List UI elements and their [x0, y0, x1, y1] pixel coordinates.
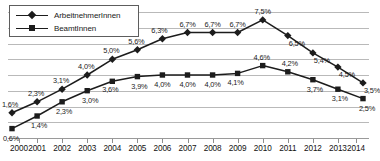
x-axis-label: 2010: [254, 144, 272, 153]
data-label: 3,6%: [102, 85, 118, 94]
data-point-marker: [59, 99, 64, 104]
data-label: 5,0%: [103, 46, 119, 55]
data-point-marker: [109, 56, 116, 63]
data-point-marker: [235, 71, 240, 76]
x-axis-tick: [356, 139, 357, 143]
data-point-marker: [9, 126, 14, 131]
x-axis-tick: [62, 139, 63, 143]
legend-label: BeamtInnen: [54, 24, 96, 33]
x-axis-tick: [338, 139, 339, 143]
data-label: 4,1%: [227, 78, 243, 87]
data-point-marker: [134, 46, 141, 53]
data-point-marker: [234, 29, 241, 36]
data-point-marker: [360, 96, 365, 101]
data-label: 3,1%: [332, 94, 348, 103]
x-axis-tick: [313, 139, 314, 143]
data-point-marker: [185, 72, 190, 77]
legend-item-arbeitnehmerinnen: ArbeitnehmerInnen: [16, 9, 120, 21]
data-label: 1,6%: [2, 99, 18, 108]
data-point-marker: [184, 29, 191, 36]
data-point-marker: [85, 88, 90, 93]
x-axis-label: 2006: [153, 144, 171, 153]
data-point-marker: [285, 69, 290, 74]
x-axis-label: 2005: [128, 144, 146, 153]
data-label: 4,0%: [204, 80, 220, 89]
data-label: 5,4%: [314, 55, 330, 64]
data-label: 6,7%: [204, 19, 220, 28]
data-point-marker: [58, 86, 65, 93]
data-label: 4,0%: [78, 62, 94, 71]
x-axis-tick: [263, 139, 264, 143]
chart-legend: ArbeitnehmerInnen BeamtInnen: [9, 5, 139, 37]
x-axis-tick: [188, 139, 189, 143]
data-point-marker: [34, 113, 39, 118]
legend-label: ArbeitnehmerInnen: [54, 11, 120, 20]
data-label: 2,3%: [56, 106, 72, 115]
x-axis-label: 2002: [53, 144, 71, 153]
x-axis-label: 2001: [28, 144, 46, 153]
x-axis-label: 2003: [78, 144, 96, 153]
data-label: 3,1%: [53, 76, 69, 85]
x-axis-label: 2008: [204, 144, 222, 153]
data-point-marker: [84, 71, 91, 78]
data-label: 4,0%: [154, 80, 170, 89]
data-label: 6,3%: [151, 25, 167, 34]
data-label: 4,2%: [282, 58, 298, 67]
x-axis-tick: [288, 139, 289, 143]
data-point-marker: [135, 74, 140, 79]
x-axis-tick: [112, 139, 113, 143]
x-axis-tick: [162, 139, 163, 143]
data-point-marker: [335, 87, 340, 92]
data-label: 5,6%: [128, 36, 144, 45]
x-axis-tick: [37, 139, 38, 143]
data-point-marker: [260, 63, 265, 68]
data-point-marker: [310, 77, 315, 82]
x-axis-label: 2009: [229, 144, 247, 153]
data-label: 6,7%: [179, 19, 195, 28]
data-point-marker: [259, 16, 266, 23]
data-point-marker: [159, 35, 166, 42]
data-label: 2,3%: [28, 88, 44, 97]
x-axis-tick: [87, 139, 88, 143]
data-label: 6,7%: [229, 19, 245, 28]
legend-item-beamtinnen: BeamtInnen: [16, 22, 96, 34]
diamond-marker-icon: [16, 10, 48, 20]
data-label: 6,5%: [289, 38, 305, 47]
data-label: 4,6%: [254, 52, 270, 61]
x-axis-label: 2011: [279, 144, 296, 153]
x-axis-label: 2004: [103, 144, 121, 153]
data-label: 3,7%: [307, 84, 323, 93]
x-axis-tick: [213, 139, 214, 143]
data-point-marker: [8, 109, 15, 116]
x-axis-label: 2007: [179, 144, 197, 153]
square-marker-icon: [16, 23, 48, 33]
data-point-marker: [110, 79, 115, 84]
data-label: 3,0%: [82, 95, 98, 104]
data-point-marker: [160, 72, 165, 77]
data-point-marker: [33, 98, 40, 105]
data-point-marker: [209, 29, 216, 36]
data-label: 1,4%: [31, 121, 47, 130]
data-label: 4,0%: [179, 80, 195, 89]
x-axis-tick: [137, 139, 138, 143]
data-point-marker: [210, 72, 215, 77]
data-label: 3,9%: [131, 81, 147, 90]
data-label: 2,5%: [359, 103, 375, 112]
x-axis-label: 2012: [304, 144, 322, 153]
x-axis-label: 2000: [10, 144, 28, 153]
data-label: 7,5%: [255, 6, 271, 15]
x-axis-label: 2013: [329, 144, 347, 153]
x-axis-tick: [19, 139, 20, 143]
data-label: 4,5%: [339, 70, 355, 79]
x-axis-tick: [238, 139, 239, 143]
data-label: 3,5%: [364, 85, 380, 94]
x-axis: 2000200120022003200420052006200720082009…: [0, 139, 371, 161]
x-axis-label: 2014: [347, 144, 365, 153]
